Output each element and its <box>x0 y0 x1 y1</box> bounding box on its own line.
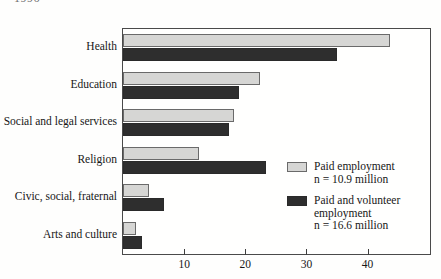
bar-paid <box>123 222 136 235</box>
legend-count-0: n = 10.9 million <box>314 173 427 186</box>
chart-legend: Paid employment n = 10.9 million Paid an… <box>287 160 427 241</box>
legend-item-paid-employment: Paid employment n = 10.9 million <box>287 160 427 185</box>
bar-paid-volunteer <box>123 48 337 61</box>
legend-item-paid-and-volunteer: Paid and volunteer employment n = 16.6 m… <box>287 194 427 232</box>
bar-paid <box>123 184 149 197</box>
bar-paid-volunteer <box>123 86 239 99</box>
legend-sublabel-1: employment <box>314 207 427 220</box>
bar-paid <box>123 34 390 47</box>
legend-label-0: Paid employment <box>314 160 427 173</box>
legend-label-1: Paid and volunteer <box>314 194 427 207</box>
x-axis: 10203040 <box>122 255 431 279</box>
bar-paid <box>123 147 199 160</box>
legend-swatch-light-icon <box>287 162 307 172</box>
category-label: Religion <box>77 153 117 165</box>
year-caption: 1996 <box>14 0 40 6</box>
bar-paid <box>123 109 234 122</box>
bar-paid-volunteer <box>123 236 142 249</box>
x-axis-tick <box>184 249 185 255</box>
category-axis: HealthEducationSocial and legal services… <box>0 28 117 255</box>
bar-paid-volunteer <box>123 161 266 174</box>
x-axis-tick <box>306 249 307 255</box>
legend-count-1: n = 16.6 million <box>314 219 427 232</box>
x-axis-tick-label: 30 <box>301 258 313 270</box>
x-axis-tick <box>245 249 246 255</box>
x-axis-tick <box>368 249 369 255</box>
x-axis-tick-label: 10 <box>178 258 190 270</box>
category-label: Civic, social, fraternal <box>15 190 117 202</box>
category-label: Education <box>70 78 117 90</box>
category-label: Social and legal services <box>4 115 117 127</box>
bar-paid-volunteer <box>123 198 164 211</box>
category-label: Health <box>86 40 117 52</box>
chart-figure: 1996 HealthEducationSocial and legal ser… <box>0 0 441 279</box>
bar-paid <box>123 72 260 85</box>
x-axis-tick-label: 40 <box>362 258 374 270</box>
bar-paid-volunteer <box>123 123 229 136</box>
category-label: Arts and culture <box>43 228 117 240</box>
legend-swatch-dark-icon <box>287 196 307 206</box>
x-axis-tick-label: 20 <box>240 258 252 270</box>
